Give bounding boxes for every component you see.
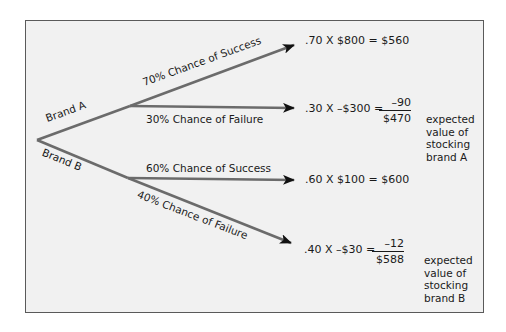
brand-b-failure-equation: .40 X –$30 = — [304, 243, 375, 256]
brand-a-expected-value: –90 $470 — [379, 96, 411, 125]
brand-b-success-arrow — [128, 178, 294, 180]
brand-a-failure-term: –90 — [379, 96, 411, 111]
brand-a-failure-arrow — [130, 106, 294, 108]
brand-b-expected-value-note: expected value of stocking brand B — [424, 254, 484, 304]
note-line: expected — [424, 254, 484, 267]
brand-a-total: $470 — [379, 111, 411, 125]
note-line: brand A — [426, 151, 486, 164]
note-line: value of — [426, 126, 486, 139]
note-line: stocking — [424, 279, 484, 292]
note-line: stocking — [426, 138, 486, 151]
note-line: value of — [424, 267, 484, 280]
brand-b-total: $588 — [372, 252, 404, 266]
brand-b-failure-term: –12 — [372, 237, 404, 252]
brand-a-expected-value-note: expected value of stocking brand A — [426, 113, 486, 163]
note-line: expected — [426, 113, 486, 126]
brand-a-failure-label: 30% Chance of Failure — [146, 113, 263, 125]
brand-a-failure-equation: .30 X –$300 = — [305, 102, 383, 115]
brand-b-success-equation: .60 X $100 = $600 — [305, 173, 409, 186]
brand-b-failure-arrow — [128, 178, 291, 243]
brand-a-success-equation: .70 X $800 = $560 — [305, 34, 409, 47]
brand-b-expected-value: –12 $588 — [372, 237, 404, 266]
brand-b-success-label: 60% Chance of Success — [146, 162, 271, 174]
note-line: brand B — [424, 292, 484, 305]
